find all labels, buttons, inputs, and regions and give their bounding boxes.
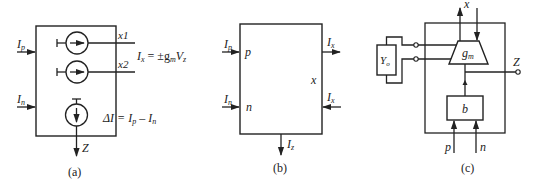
terminal-icon (414, 43, 418, 47)
transconductor-gm: gm x (449, 0, 488, 64)
panel-a: Ip In x1 x2 Ix = ±gmVz (16, 26, 187, 179)
panel-c-p-label: p (444, 140, 451, 154)
panel-b-iz-label: Iz (286, 137, 295, 152)
buffer-b: b (447, 96, 483, 120)
panel-b-ix-output-bottom: Ix (323, 90, 341, 107)
arrow-up-icon (463, 80, 468, 85)
panel-a-in-label: In (16, 92, 25, 107)
panel-c: Yo gm x Z b (377, 0, 520, 175)
b-label: b (462, 102, 468, 116)
panel-a-delta-i-equation: ΔI = Ip – In (102, 111, 156, 126)
panel-a-ip-input: Ip (16, 37, 35, 52)
panel-a-in-input: In (16, 92, 35, 107)
panel-c-x-label: x (463, 0, 470, 11)
panel-a-caption: (a) (68, 165, 81, 179)
panel-c-n-label: n (480, 140, 486, 154)
panel-a-ix-equation: Ix = ±gmVz (136, 49, 187, 64)
panel-a-x1-label: x1 (117, 29, 128, 41)
panel-c-caption: (c) (461, 161, 474, 175)
panel-c-z-label: Z (513, 55, 520, 69)
panel-b-x-port-label: x (310, 73, 317, 87)
panel-b-ix-bottom-label: Ix (326, 90, 335, 105)
panel-a-z-label: Z (82, 141, 89, 155)
z-terminal-icon (516, 70, 520, 74)
panel-b: Ip p In n x Ix Ix Iz (b) (222, 24, 341, 175)
panel-a-x2-label: x2 (117, 58, 129, 70)
panel-b-in-label: In (223, 92, 232, 107)
panel-b-p-port-label: p (244, 45, 251, 59)
panel-b-ip-label: Ip (223, 37, 232, 52)
panel-b-n-port-label: n (246, 100, 252, 114)
panel-b-block (240, 24, 322, 134)
panel-a-ip-label: Ip (16, 37, 25, 52)
cdba-diagram-figure: Ip In x1 x2 Ix = ±gmVz (0, 0, 538, 185)
terminal-icon (414, 57, 418, 61)
admittance-yo: Yo (377, 37, 457, 83)
panel-c-inputs: p n (444, 121, 486, 154)
panel-b-caption: (b) (273, 161, 287, 175)
panel-b-ix-output-top: Ix (322, 35, 340, 52)
panel-b-iz-output: Iz (281, 134, 295, 155)
panel-b-ix-top-label: Ix (326, 35, 335, 50)
